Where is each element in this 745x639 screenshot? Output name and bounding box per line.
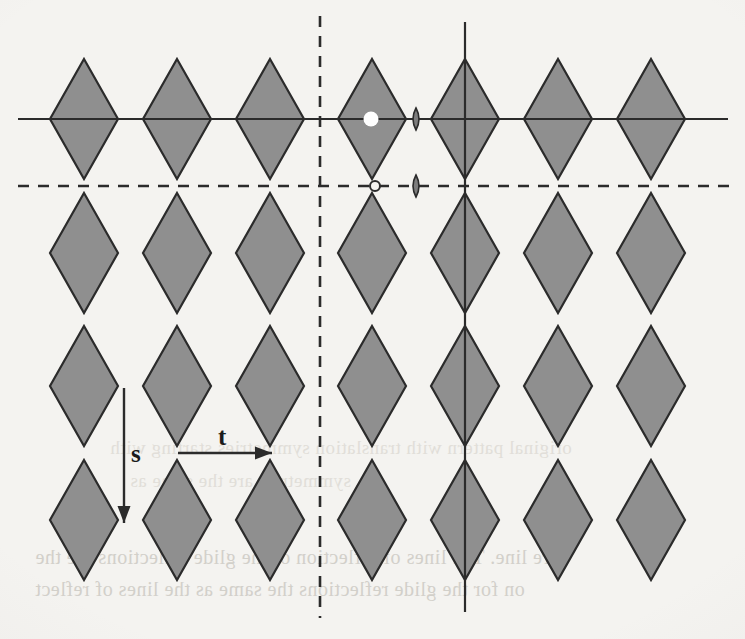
rhombus-tile — [524, 460, 592, 580]
rhombus-tile — [338, 326, 406, 446]
rhombus-tile — [617, 460, 685, 580]
rhombus-tile — [236, 460, 304, 580]
rhombus-tile — [50, 460, 118, 580]
symmetry-marker-lens-lower — [413, 175, 419, 197]
rhombus-tile — [143, 460, 211, 580]
rhombus-tile — [338, 193, 406, 313]
rhombus-tile — [338, 460, 406, 580]
symmetry-marker-lens-upper — [413, 108, 419, 130]
rhombus-tile — [50, 193, 118, 313]
rhombus-tile — [143, 326, 211, 446]
rhombus-tile — [617, 326, 685, 446]
rhombus-tiling-layer — [50, 59, 685, 580]
tiling-drawing — [0, 0, 745, 639]
rhombus-tile — [617, 193, 685, 313]
arrowhead — [118, 506, 131, 523]
rhombus-tile — [524, 326, 592, 446]
symmetry-marker-filled-circle — [364, 112, 379, 127]
translation-arrow-s — [118, 388, 131, 523]
symmetry-diagram-figure: original pattern with translation symmet… — [0, 0, 745, 639]
arrowhead — [255, 447, 272, 460]
rhombus-tile — [524, 193, 592, 313]
rhombus-tile — [50, 326, 118, 446]
vector-label-t: t — [218, 423, 226, 451]
vector-label-s: s — [131, 440, 141, 468]
rhombus-tile — [236, 326, 304, 446]
rhombus-tile — [236, 193, 304, 313]
rhombus-tile — [143, 193, 211, 313]
symmetry-marker-hollow-circle — [370, 181, 380, 191]
